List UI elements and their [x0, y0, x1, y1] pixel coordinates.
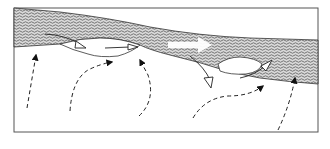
flow-diagram — [0, 0, 330, 149]
